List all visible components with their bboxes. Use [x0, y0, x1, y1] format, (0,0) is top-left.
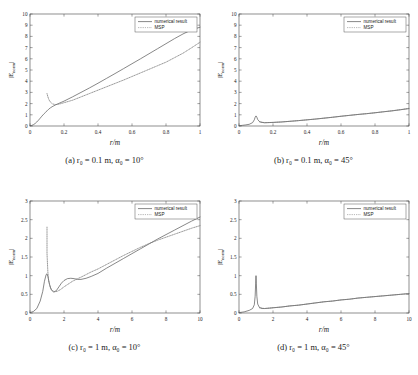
legend-label-numerical-a: numerical result [155, 19, 188, 24]
x-tick-label-b-3: 0.6 [338, 129, 345, 135]
x-tick-label-a-4: 0.8 [163, 129, 170, 135]
x-tick-label-a-0: 0 [29, 129, 32, 135]
y-axis-title-d: |Enorm| [216, 249, 225, 266]
x-tick-label-c-4: 8 [165, 316, 168, 322]
legend-label-msp-c: MSP [155, 212, 165, 217]
x-tick-label-a-2: 0.4 [95, 129, 102, 135]
series-line-a-msp [47, 42, 200, 104]
legend-c: numerical resultMSP [135, 204, 197, 219]
y-tick-label-c-5: 2.5 [21, 217, 28, 223]
x-tick-label-b-2: 0.4 [304, 129, 311, 135]
y-tick-label-b-9: 9 [234, 22, 237, 28]
y-tick-label-d-5: 2.5 [230, 217, 237, 223]
y-tick-label-b-4: 4 [234, 78, 237, 84]
x-tick-label-d-2: 4 [306, 316, 309, 322]
y-tick-label-a-2: 2 [25, 101, 28, 107]
x-axis-title-b: r/m [319, 138, 330, 147]
y-tick-label-a-4: 4 [25, 78, 28, 84]
x-tick-label-d-1: 2 [272, 316, 275, 322]
y-tick-label-b-6: 6 [234, 56, 237, 62]
legend-label-msp-a: MSP [155, 25, 165, 30]
subplot-panel-a: 00.20.40.60.81012345678910r/m|Enorm|nume… [0, 0, 209, 187]
y-tick-label-b-1: 1 [234, 112, 237, 118]
y-tick-label-a-3: 3 [25, 89, 28, 95]
y-axis-title-b: |Enorm| [216, 62, 225, 79]
series-line-b-numerical [239, 109, 409, 126]
x-tick-label-c-0: 0 [29, 316, 32, 322]
y-tick-label-b-7: 7 [234, 45, 237, 51]
y-tick-label-a-8: 8 [25, 33, 28, 39]
subplot-panel-c: 024681000.511.522.53r/m|Enorm|numerical … [0, 187, 209, 375]
legend-label-msp-d: MSP [364, 212, 374, 217]
x-tick-label-b-4: 0.8 [372, 129, 379, 135]
y-tick-label-d-1: 0.5 [230, 291, 237, 297]
series-line-a-numerical [30, 27, 200, 126]
subplot-panel-b: 00.20.40.60.81012345678910r/m|Enorm|nume… [209, 0, 418, 187]
series-line-d-numerical [239, 276, 409, 313]
x-axis-title-d: r/m [319, 325, 330, 334]
y-tick-label-a-10: 10 [22, 11, 28, 17]
y-tick-label-a-7: 7 [25, 45, 28, 51]
x-tick-label-c-5: 10 [197, 316, 203, 322]
x-tick-label-b-5: 1 [408, 129, 411, 135]
y-tick-label-d-6: 3 [234, 198, 237, 204]
x-tick-label-d-3: 6 [340, 316, 343, 322]
y-tick-label-d-0: 0 [234, 310, 237, 316]
x-axis-title-a: r/m [110, 138, 121, 147]
y-tick-label-d-2: 1 [234, 273, 237, 279]
x-axis-title-c: r/m [110, 325, 121, 334]
x-tick-label-a-1: 0.2 [61, 129, 68, 135]
plot-svg-c: 024681000.511.522.53r/m|Enorm|numerical … [0, 187, 209, 347]
y-tick-label-b-10: 10 [231, 11, 237, 17]
y-tick-label-c-3: 1.5 [21, 254, 28, 260]
plot-svg-b: 00.20.40.60.81012345678910r/m|Enorm|nume… [209, 0, 418, 160]
legend-d: numerical resultMSP [344, 204, 406, 219]
y-tick-label-b-0: 0 [234, 123, 237, 129]
legend-label-msp-b: MSP [364, 25, 374, 30]
legend-label-numerical-b: numerical result [364, 19, 397, 24]
figure-grid: 00.20.40.60.81012345678910r/m|Enorm|nume… [0, 0, 418, 375]
subplot-panel-d: 024681000.511.522.53r/m|Enorm|numerical … [209, 187, 418, 375]
plot-svg-d: 024681000.511.522.53r/m|Enorm|numerical … [209, 187, 418, 347]
legend-a: numerical resultMSP [135, 17, 197, 32]
x-tick-label-d-0: 0 [238, 316, 241, 322]
y-tick-label-b-2: 2 [234, 101, 237, 107]
x-tick-label-c-1: 2 [63, 316, 66, 322]
y-tick-label-c-0: 0 [25, 310, 28, 316]
x-tick-label-d-5: 10 [406, 316, 412, 322]
x-tick-label-a-3: 0.6 [129, 129, 136, 135]
x-tick-label-c-3: 6 [131, 316, 134, 322]
plot-area-a: 00.20.40.60.81012345678910r/m|Enorm|nume… [0, 0, 209, 160]
x-tick-label-b-0: 0 [238, 129, 241, 135]
y-tick-label-a-9: 9 [25, 22, 28, 28]
y-tick-label-a-6: 6 [25, 56, 28, 62]
y-tick-label-a-5: 5 [25, 67, 28, 73]
y-tick-label-a-1: 1 [25, 112, 28, 118]
y-tick-label-b-5: 5 [234, 67, 237, 73]
series-line-c-numerical [30, 217, 200, 313]
y-tick-label-d-3: 1.5 [230, 254, 237, 260]
x-tick-label-a-5: 1 [199, 129, 202, 135]
x-tick-label-d-4: 8 [374, 316, 377, 322]
y-tick-label-a-0: 0 [25, 123, 28, 129]
y-tick-label-b-8: 8 [234, 33, 237, 39]
x-tick-label-c-2: 4 [97, 316, 100, 322]
series-line-b-msp [259, 108, 409, 122]
plot-area-b: 00.20.40.60.81012345678910r/m|Enorm|nume… [209, 0, 418, 160]
plot-area-d: 024681000.511.522.53r/m|Enorm|numerical … [209, 187, 418, 347]
y-tick-label-c-4: 2 [25, 235, 28, 241]
y-tick-label-c-6: 3 [25, 198, 28, 204]
y-tick-label-b-3: 3 [234, 89, 237, 95]
plot-svg-a: 00.20.40.60.81012345678910r/m|Enorm|nume… [0, 0, 209, 160]
x-tick-label-b-1: 0.2 [270, 129, 277, 135]
y-axis-title-a: |Enorm| [7, 62, 16, 79]
legend-label-numerical-c: numerical result [155, 206, 188, 211]
legend-b: numerical resultMSP [344, 17, 406, 32]
y-axis-title-c: |Enorm| [7, 249, 16, 266]
plot-area-c: 024681000.511.522.53r/m|Enorm|numerical … [0, 187, 209, 347]
y-tick-label-c-1: 0.5 [21, 291, 28, 297]
legend-label-numerical-d: numerical result [364, 206, 397, 211]
y-tick-label-d-4: 2 [234, 235, 237, 241]
y-tick-label-c-2: 1 [25, 273, 28, 279]
